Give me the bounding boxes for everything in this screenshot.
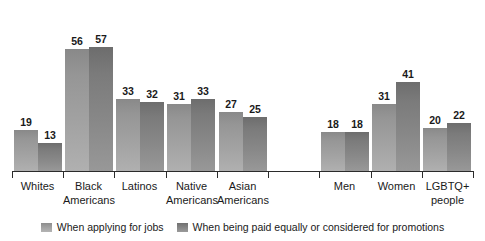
bar-value-label: 33 [188, 86, 218, 97]
chart-legend: When applying for jobsWhen being paid eq… [0, 219, 485, 235]
bar-group: 1818 [321, 0, 369, 172]
category-label: AsianAmericans [217, 180, 268, 207]
axis-tick [63, 171, 64, 178]
axis-tick [473, 171, 474, 178]
category-labels: WhitesBlackAmericansLatinosNativeAmerica… [0, 180, 485, 212]
x-axis [0, 171, 485, 179]
legend-label: When applying for jobs [57, 221, 164, 233]
bar [65, 49, 89, 171]
bar-chart: 19135657333231332725181831412022 WhitesB… [0, 0, 485, 241]
bar [447, 123, 471, 171]
bar [345, 132, 369, 171]
category-label-line: Asian [217, 180, 268, 194]
bar-value-label: 25 [240, 104, 270, 115]
bar [140, 102, 164, 171]
x-axis-line [12, 171, 473, 172]
bar-value-label: 32 [137, 89, 167, 100]
legend-swatch-icon [41, 223, 52, 232]
category-label-line: Americans [217, 194, 268, 208]
bar-group: 2725 [219, 0, 267, 172]
bar [321, 132, 345, 171]
plot-area: 19135657333231332725181831412022 [0, 0, 485, 172]
bar [167, 104, 191, 171]
category-label-line: Americans [166, 194, 217, 208]
bar-value-label: 41 [393, 69, 423, 80]
category-label: Men [319, 180, 370, 194]
category-label-line: Black [63, 180, 114, 194]
category-label-line: LGBTQ+ [422, 180, 473, 194]
category-label-line: Native [166, 180, 217, 194]
category-label: NativeAmericans [166, 180, 217, 207]
axis-tick [12, 171, 13, 178]
bar-group: 1913 [14, 0, 62, 172]
legend-item: When applying for jobs [41, 221, 164, 233]
bar-group: 5657 [65, 0, 113, 172]
category-label-line: Men [319, 180, 370, 194]
category-label: BlackAmericans [63, 180, 114, 207]
axis-tick [268, 171, 269, 178]
bar [372, 104, 396, 171]
bar-value-label: 13 [35, 130, 65, 141]
category-label: LGBTQ+people [422, 180, 473, 207]
axis-tick [371, 171, 372, 178]
bar [423, 128, 447, 171]
bar [38, 143, 62, 171]
bar [396, 82, 420, 171]
bar-value-label: 22 [444, 110, 474, 121]
bar-group: 3332 [116, 0, 164, 172]
bar-value-label: 57 [86, 34, 116, 45]
bar-value-label: 19 [11, 117, 41, 128]
category-label-line: people [422, 194, 473, 208]
axis-tick [166, 171, 167, 178]
bar [116, 99, 140, 171]
bar-group: 3133 [167, 0, 215, 172]
bar-value-label: 31 [369, 91, 399, 102]
legend-label: When being paid equally or considered fo… [193, 221, 445, 233]
category-label-line: Whites [12, 180, 63, 194]
bar [219, 112, 243, 171]
bar-group: 2022 [423, 0, 471, 172]
bar-value-label: 18 [342, 119, 372, 130]
category-label-line: Americans [63, 194, 114, 208]
axis-tick [114, 171, 115, 178]
bar [191, 99, 215, 171]
category-label-line: Latinos [114, 180, 165, 194]
category-label: Whites [12, 180, 63, 194]
category-label: Latinos [114, 180, 165, 194]
axis-tick [319, 171, 320, 178]
bar [243, 117, 267, 171]
axis-tick [422, 171, 423, 178]
category-label: Women [371, 180, 422, 194]
category-label-line: Women [371, 180, 422, 194]
legend-item: When being paid equally or considered fo… [177, 221, 445, 233]
legend-swatch-icon [177, 223, 188, 232]
bar-group: 3141 [372, 0, 420, 172]
axis-tick [217, 171, 218, 178]
bar [89, 47, 113, 171]
